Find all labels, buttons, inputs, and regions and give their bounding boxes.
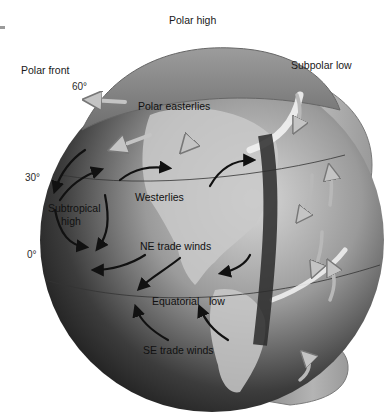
label-equatorial: Equatorial [152, 296, 199, 307]
label-lat-0: 0° [27, 250, 37, 260]
label-subpolar-low: Subpolar low [291, 60, 352, 71]
label-westerlies: Westerlies [135, 192, 184, 203]
circulation-diagram: Polar high Polar front Subpolar low 60° … [0, 0, 391, 418]
label-low: low [209, 296, 225, 307]
label-lat-30: 30° [25, 173, 40, 183]
label-subtropical: Subtropical [48, 203, 101, 214]
label-subtropical-high: high [61, 216, 81, 227]
label-lat-60: 60° [72, 82, 87, 92]
label-ne-trade-winds: NE trade winds [140, 241, 211, 252]
label-polar-easterlies: Polar easterlies [138, 101, 210, 112]
label-se-trade-winds: SE trade winds [143, 345, 214, 356]
label-polar-front: Polar front [21, 65, 69, 76]
label-polar-high: Polar high [169, 15, 216, 26]
